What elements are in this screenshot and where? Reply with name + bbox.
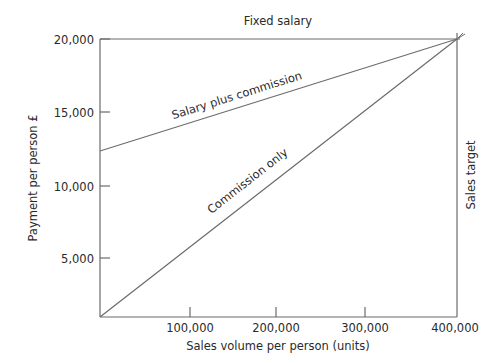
y-tick-label-5000: 5,000: [61, 252, 94, 266]
chart-canvas: 20,000 15,000 10,000 5,000 100,000 200,0…: [0, 0, 494, 363]
y-tick-labels: 20,000 15,000 10,000 5,000: [54, 33, 94, 266]
salary-plus-commission-label: Salary plus commission: [170, 68, 304, 122]
x-tick-labels: 100,000 200,000 300,000 400,000: [166, 321, 479, 335]
convergence-mark: [457, 33, 465, 39]
y-tick-label-10000: 10,000: [54, 180, 94, 194]
x-tick-label-200000: 200,000: [252, 321, 300, 335]
salary-plus-commission-line: [100, 39, 457, 151]
y-tick-label-15000: 15,000: [54, 106, 94, 120]
x-ticks: [190, 307, 365, 317]
sales-target-label: Sales target: [464, 140, 478, 210]
x-axis-title: Sales volume per person (units): [186, 339, 370, 353]
x-tick-label-100000: 100,000: [166, 321, 214, 335]
y-axis-title: Payment per person £: [26, 114, 40, 241]
y-tick-label-20000: 20,000: [54, 33, 94, 47]
commission-only-label: Commission only: [205, 145, 291, 216]
x-tick-label-400000: 400,000: [431, 321, 479, 335]
x-tick-label-300000: 300,000: [341, 321, 389, 335]
fixed-salary-label: Fixed salary: [244, 14, 312, 28]
